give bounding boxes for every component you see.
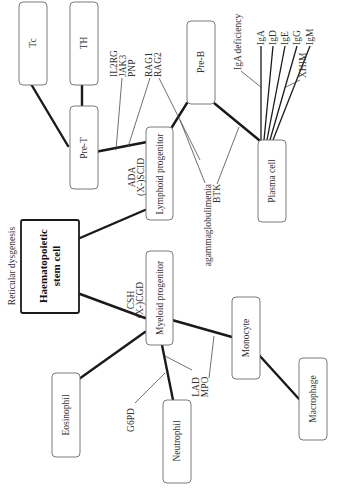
lineage-diagram: Tc TH Pre-T Lymphoid progenitor Pre-B Pl…: [0, 0, 340, 491]
label-igm: IgM: [305, 28, 315, 45]
edge-ige: [267, 46, 285, 140]
edge-igg: [270, 46, 297, 140]
pointer-il2rg: [116, 78, 122, 150]
cell-tc[interactable]: Tc: [19, 2, 47, 85]
pointer-btk: [217, 127, 239, 184]
edge-lymphoid-pret: [95, 142, 147, 152]
stem-cell-label-2: stem cell: [50, 246, 62, 287]
cell-neutrophil-label: Neutrophil: [172, 420, 182, 462]
pointer-iga-def: [241, 71, 262, 88]
cell-macrophage-label: Macrophage: [308, 375, 318, 422]
pointer-g6pd: [135, 373, 165, 403]
label-xcgd: (X-)CGD: [135, 282, 146, 319]
edge-myeloid-eosinophil: [79, 332, 145, 379]
cell-pre-b-label: Pre-B: [196, 51, 206, 73]
label-reticular-dysgenesis: Reticular dysgenesis: [7, 227, 17, 306]
cell-monocyte[interactable]: Monocyte: [232, 297, 260, 379]
cell-pre-t-label: Pre-T: [79, 137, 89, 159]
cell-lymphoid-label: Lymphoid progenitor: [155, 133, 165, 215]
cell-neutrophil[interactable]: Neutrophil: [163, 400, 191, 483]
stem-cell-label-1: Haematopoietic: [37, 229, 49, 303]
edge-lymphoid-preb: [172, 103, 187, 127]
pointer-agamma: [180, 120, 205, 183]
edge-pret-tc: [31, 84, 68, 146]
label-g6pd: G6PD: [126, 408, 136, 432]
cell-myeloid-label: Myeloid progenitor: [155, 260, 165, 335]
cell-monocyte-label: Monocyte: [241, 319, 251, 358]
cell-lymphoid-progenitor[interactable]: Lymphoid progenitor: [146, 127, 173, 220]
label-rag2: RAG2: [153, 52, 163, 77]
cell-stem[interactable]: Haematopoietic stem cell: [21, 220, 79, 313]
cell-plasma-label: Plasma cell: [267, 159, 277, 203]
label-igd: IgD: [268, 30, 278, 45]
label-iga-deficiency: IgA deficiency: [233, 14, 243, 70]
cell-myeloid-progenitor[interactable]: Myeloid progenitor: [146, 251, 173, 345]
edge-igd: [264, 46, 273, 140]
label-btk: BTK: [212, 184, 222, 203]
cell-th[interactable]: TH: [70, 2, 98, 85]
edge-myeloid-monocyte: [172, 320, 232, 337]
label-mpo: MPO: [200, 377, 210, 398]
label-ige: IgE: [280, 31, 290, 45]
label-iga: IgA: [256, 30, 266, 45]
pointer-mpo: [209, 336, 214, 378]
edge-stem-lymphoid: [80, 210, 145, 238]
label-igg: IgG: [292, 30, 302, 45]
cell-pre-t[interactable]: Pre-T: [70, 106, 98, 189]
pointer-lad: [165, 356, 192, 370]
cell-macrophage[interactable]: Macrophage: [299, 358, 327, 440]
edge-monocyte-macrophage: [259, 355, 299, 399]
cell-eosinophil[interactable]: Eosinophil: [52, 373, 80, 457]
label-xhim: XHIM: [298, 52, 308, 78]
cell-eosinophil-label: Eosinophil: [61, 394, 71, 436]
cell-th-label: TH: [79, 37, 89, 50]
edge-myeloid-neutrophil: [162, 345, 173, 400]
label-pnp: PNP: [127, 60, 137, 77]
label-xscid: (X-)SCID: [136, 158, 147, 196]
cell-tc-label: Tc: [28, 38, 38, 47]
cell-pre-b[interactable]: Pre-B: [187, 21, 215, 104]
cell-plasma[interactable]: Plasma cell: [258, 140, 286, 222]
